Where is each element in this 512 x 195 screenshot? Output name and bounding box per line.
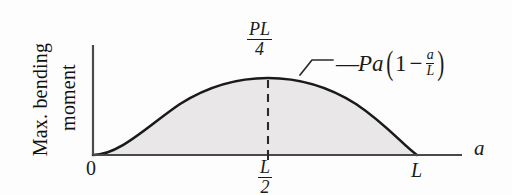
equation-fraction-denominator: L — [426, 63, 434, 79]
equation-close-paren: ) — [437, 46, 444, 80]
y-axis-label-line-1: Max. bending — [29, 20, 52, 180]
equation-fraction: a L — [426, 48, 434, 78]
peak-value-denominator: 4 — [247, 39, 272, 59]
equation-fraction-numerator: a — [426, 48, 434, 63]
equation-minus-sign: − — [409, 52, 422, 75]
origin-tick-label: 0 — [86, 158, 96, 178]
equation-leader-dash: — — [336, 52, 358, 75]
peak-value-label: PL 4 — [247, 20, 272, 58]
equation-prefix: Pa — [358, 52, 384, 75]
equation-open-paren: ( — [386, 46, 393, 80]
x-axis-max-tick-label: L — [411, 160, 422, 180]
y-axis-label-line-2: moment — [57, 18, 80, 178]
equation-leader-line — [300, 60, 333, 75]
midspan-denominator: 2 — [258, 177, 272, 195]
curve-fill-area — [93, 78, 417, 155]
midspan-tick-label: L 2 — [258, 158, 272, 195]
midspan-numerator: L — [258, 158, 272, 177]
peak-value-numerator: PL — [247, 20, 272, 39]
bending-moment-figure: Max. bending moment 0 L a PL 4 L 2 — Pa … — [0, 0, 512, 195]
curve-equation-label: — Pa ( 1 − a L ) — [336, 46, 447, 80]
equation-one: 1 — [395, 52, 407, 75]
x-axis-variable-label: a — [474, 138, 485, 159]
y-axis-label: Max. bending moment — [0, 0, 92, 195]
